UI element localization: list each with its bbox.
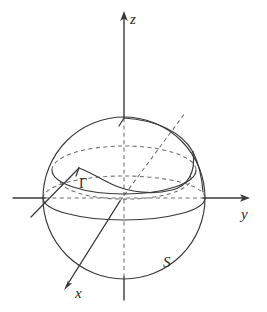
cap-seam-at-axis xyxy=(119,118,124,126)
y-axis-label: y xyxy=(239,206,248,222)
x-axis-front-segment xyxy=(69,201,120,282)
cap-sheet-upper-edge xyxy=(124,118,193,152)
gamma-curve-label: Γ xyxy=(79,176,87,191)
x-axis-arrowhead xyxy=(64,280,72,290)
surface-label: S xyxy=(163,254,171,270)
x-axis-hidden-segment xyxy=(120,113,185,201)
geometry-diagram: z y x Γ S xyxy=(0,0,267,312)
x-axis-label: x xyxy=(74,285,82,301)
z-axis-label: z xyxy=(129,11,136,27)
